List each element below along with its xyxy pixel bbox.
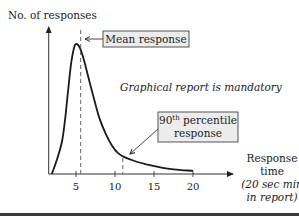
x-tick-label-15: 15	[148, 181, 161, 192]
distribution-curve	[52, 44, 193, 174]
x-axis-note-line2: in report)	[246, 191, 297, 203]
x-tick-label-20: 20	[187, 181, 200, 192]
p90-label-line2: response	[174, 127, 222, 139]
mean-response-label: Mean response	[105, 33, 186, 45]
graphical-report-note: Graphical report is mandatory	[120, 81, 283, 93]
y-axis-label: No. of responses	[8, 9, 97, 21]
p90-pointer-arrow	[130, 129, 158, 154]
x-tick-label-10: 10	[109, 181, 122, 192]
p90-label-rest: percentile	[180, 114, 237, 126]
bottom-rule	[0, 213, 299, 216]
p90-label-num: 90	[159, 114, 172, 126]
x-tick-label-5: 5	[73, 181, 79, 192]
x-axis-label-line1: Response	[247, 152, 298, 164]
response-time-chart: No. of responses 5101520 Mean response G…	[0, 0, 299, 216]
x-axis-label-line2: time	[260, 165, 284, 177]
x-axis-note-line1: (20 sec min	[241, 178, 299, 190]
p90-label-line1: 90th percentile	[159, 114, 237, 126]
